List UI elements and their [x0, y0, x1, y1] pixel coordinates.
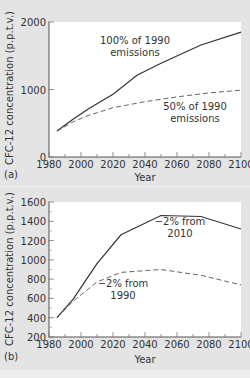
x-axis-title: Year	[133, 354, 156, 365]
series-annotation: −2% from	[155, 216, 206, 227]
x-tick-label: 2040	[132, 159, 157, 170]
panel-label: (a)	[4, 169, 18, 180]
series-annotation: 2010	[167, 228, 192, 239]
series-annotation: 100% of 1990	[100, 35, 170, 46]
y-tick-label: 1000	[21, 85, 46, 96]
y-tick-label: 800	[27, 274, 46, 285]
x-tick-label: 2000	[68, 159, 93, 170]
x-tick-label: 2000	[68, 339, 93, 350]
x-tick-label: 2020	[100, 159, 125, 170]
series-annotation: emissions	[170, 113, 220, 124]
x-tick-label: 2020	[100, 339, 125, 350]
y-tick-label: 0	[40, 152, 46, 163]
series-annotation: −2% from	[98, 278, 149, 289]
chart-b-svg: 1980200020202040206020802100200400600800…	[0, 187, 250, 370]
x-axis-title: Year	[133, 172, 156, 183]
x-tick-label: 2100	[228, 159, 250, 170]
bottom-strip	[0, 370, 250, 378]
x-tick-label: 2060	[164, 339, 189, 350]
y-tick-label: 200	[27, 332, 46, 343]
y-tick-label: 600	[27, 293, 46, 304]
panel-label: (b)	[4, 351, 18, 362]
y-tick-label: 2000	[21, 17, 46, 28]
series-annotation: emissions	[110, 47, 160, 58]
x-tick-label: 2100	[228, 339, 250, 350]
chart-panel-a: 1980200020202040206020802100010002000100…	[0, 0, 250, 186]
y-tick-label: 1400	[21, 216, 46, 227]
y-axis-title: CFC-12 concentration (p.p.t.v.)	[4, 192, 15, 346]
plot-area	[49, 202, 241, 337]
chart-a-svg: 1980200020202040206020802100010002000100…	[0, 0, 250, 186]
series-annotation: 1990	[110, 290, 135, 301]
x-tick-label: 2080	[196, 159, 221, 170]
y-axis-title: CFC-12 concentration (p.p.t.v.)	[4, 11, 15, 165]
x-tick-label: 2040	[132, 339, 157, 350]
y-tick-label: 1600	[21, 197, 46, 208]
y-tick-label: 400	[27, 313, 46, 324]
chart-panel-b: 1980200020202040206020802100200400600800…	[0, 187, 250, 370]
x-tick-label: 2060	[164, 159, 189, 170]
y-tick-label: 1000	[21, 255, 46, 266]
x-tick-label: 2080	[196, 339, 221, 350]
y-tick-label: 1200	[21, 236, 46, 247]
series-annotation: 50% of 1990	[163, 101, 227, 112]
